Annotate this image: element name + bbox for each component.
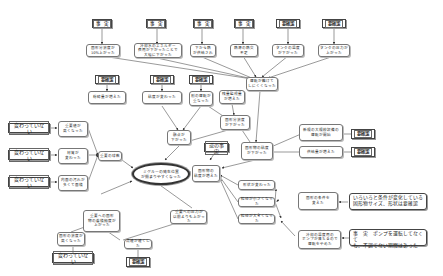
node-viscosity-changed[interactable]: 粘度が変わった (142, 91, 182, 104)
fact-tag: 事 実 (92, 19, 112, 28)
unchanged-tag: 変わっていない (52, 253, 94, 263)
confirm-tag-label: 要確認 (192, 76, 210, 84)
node-heat-source-shortage[interactable]: 熱源の熱交 不足 (230, 44, 258, 57)
confirm-tag-label: 要確認 (354, 130, 372, 138)
diagram-title (175, 0, 270, 8)
node-supply-up[interactable]: 供給量が増えた (299, 146, 343, 158)
node-solid-viscosity-up[interactable]: 固形物の 粘度が増えた (192, 165, 220, 182)
node-inner-dirt[interactable]: 内面の汚れが 多くて面積 (58, 175, 88, 191)
confirm-tag: 要確認 (150, 75, 174, 84)
node-shape-changed[interactable]: 形状が変わった (238, 180, 275, 190)
note-fact-pump: 事 実 ポンプを運転してなくて も、不調でない期間はあった (349, 229, 427, 246)
node-residual-monitor-up[interactable]: 残量監視量 が増えた (219, 90, 245, 104)
confirm-tag-label: 要確認 (153, 76, 171, 84)
confirm-tag: 要確認 (351, 147, 375, 157)
node-important-count[interactable]: 重要の球数 (98, 151, 122, 161)
fact-tag: 事 実 (146, 19, 166, 28)
unchanged-label: 変わっていない (9, 121, 49, 135)
node-pressure-up[interactable]: 重要への圧力が 以前よりも上がった (170, 210, 207, 224)
confirm-tag-label: 要確認 (98, 76, 116, 84)
node-particle-larger[interactable]: 粒径が大きくなった (238, 214, 275, 224)
fact-tag-label: 事 実 (194, 20, 212, 28)
confirm-tag-label: 要確認 (354, 148, 372, 156)
node-other-operation-overlap[interactable]: 別の運転が 重なった (189, 91, 213, 106)
node-solid-viscosity-down[interactable]: 固形物の粘度 が下がった (241, 142, 273, 160)
node-important-value-high[interactable]: 重要値が 高くなった (58, 121, 88, 137)
node-flow-rate-up[interactable]: 流速が速くした (124, 239, 152, 249)
central-problem-node[interactable]: ミグルーの発生位置 が揃まりやすくなった (132, 163, 190, 185)
node-material-changed[interactable]: 材質が 変わった (58, 148, 88, 164)
unchanged-tag: 変わっていない (8, 150, 50, 160)
confirm-tag: 要確認 (276, 19, 300, 28)
node-tank-pressure-up[interactable]: タンクの圧力が 上がった (318, 44, 350, 57)
node-cooling-energy-cost[interactable]: 冷却水のエネルギー 費用が下がったことで 大幅に下がった (134, 43, 182, 58)
node-heat-supplied-below[interactable]: 下から熱 が供給され (190, 44, 216, 57)
confirm-tag: 要確認 (95, 75, 119, 84)
node-grinding-amount-up[interactable]: 粉砕量が増えた (88, 91, 126, 104)
fact-tag-label: 事 実 (93, 20, 111, 28)
confirm-tag-label: 要確認 (279, 20, 297, 28)
node-solid-condition-changed[interactable]: 固形の条件を 変えた (298, 192, 338, 210)
fact-tag: 事 実 (193, 19, 213, 28)
contrary-fact-tag: 逆の事実 (204, 143, 229, 152)
node-solid-concentration-up[interactable]: 固形分濃度が 10%上がった (86, 44, 120, 57)
node-solid-concentration-high[interactable]: 固形の濃度が 高くなった (57, 232, 85, 246)
unchanged-label: 変わっていない (53, 251, 93, 265)
confirm-tag-label: 要確認 (325, 20, 343, 28)
fact-tag-label: 事 実 (235, 20, 253, 28)
unchanged-tag: 変わっていない (8, 123, 50, 133)
fact-tag-label: 事 実 (147, 20, 165, 28)
contrary-fact-label: 逆の事実 (205, 141, 228, 155)
node-pump-stopped[interactable]: 冷却の温度用の ポンプが落ちるので 運転をやめた (298, 230, 341, 249)
node-operation-difficult[interactable]: 運転が難けて しにくくなった (246, 77, 278, 91)
fact-tag: 事 実 (234, 19, 254, 28)
confirm-tag: 要確認 (126, 257, 150, 267)
node-solid-concentration-down[interactable]: 固形分濃度 が下がった (220, 115, 250, 130)
confirm-tag: 要確認 (322, 19, 346, 28)
note-conditions-changed: いろいろと条件が変化している 固形物サイズ、形状は要確認 (349, 193, 427, 210)
confirm-tag: 要確認 (351, 129, 375, 139)
node-melting-point-down[interactable]: 融点が 下がった (167, 130, 191, 145)
confirm-tag-label: 要確認 (129, 258, 147, 266)
node-tank-temp-down[interactable]: タンクの温度 が下がった (272, 44, 304, 57)
unchanged-tag: 変わっていない (8, 177, 50, 187)
node-new-large-facility[interactable]: 新規の大規模設備の 運転が開始 (299, 124, 343, 141)
unchanged-label: 変わっていない (9, 175, 49, 189)
node-solid-accumulation-up[interactable]: 重要への固形 物の蓄積頻度が 上がった (83, 210, 120, 232)
confirm-tag: 要確認 (189, 75, 213, 84)
node-particle-smaller[interactable]: 粒径が小さくなった (238, 197, 275, 207)
unchanged-label: 変わっていない (9, 148, 49, 162)
